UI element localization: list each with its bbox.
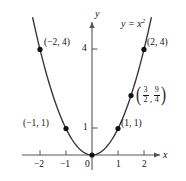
point-label-neg1-1: (−1, 1) bbox=[23, 119, 49, 129]
point-marker-origin bbox=[89, 152, 94, 157]
right-paren: ) bbox=[161, 86, 166, 103]
point-marker-neg2-4 bbox=[37, 47, 42, 52]
point-marker-1-1 bbox=[115, 126, 120, 131]
y-tick-label-1: 1 bbox=[83, 123, 88, 133]
fraction-denominator-4: 4 bbox=[154, 96, 160, 104]
fraction-numerator-9: 9 bbox=[154, 86, 160, 94]
point-label-2-4: (2, 4) bbox=[147, 38, 168, 48]
origin-label: 0 bbox=[85, 160, 90, 170]
fraction-denominator-2: 2 bbox=[143, 96, 149, 104]
equation-label: y = x2 bbox=[121, 18, 145, 29]
x-tick-label-2: 2 bbox=[142, 160, 147, 170]
x-tick-label--1: −1 bbox=[60, 160, 70, 170]
equation-exponent: 2 bbox=[142, 17, 146, 25]
equation-text: y = x bbox=[121, 18, 142, 29]
point-label-3over2-9over4: ( 3 2 , 9 4 ) bbox=[135, 86, 167, 104]
x-tick-label--2: −2 bbox=[34, 160, 44, 170]
y-tick-label-4: 4 bbox=[82, 44, 87, 54]
x-tick-label-1: 1 bbox=[116, 160, 121, 170]
point-label-1-1: (1, 1) bbox=[121, 119, 142, 129]
x-axis-label: x bbox=[163, 150, 167, 160]
point-marker-neg1-1 bbox=[63, 126, 68, 131]
left-paren: ( bbox=[136, 86, 141, 103]
fraction-three-halves: 3 2 bbox=[142, 86, 149, 104]
y-axis-label: y bbox=[95, 9, 99, 19]
y-axis-arrow bbox=[89, 22, 94, 28]
x-axis-arrow bbox=[154, 152, 160, 157]
point-marker-2-4 bbox=[141, 47, 146, 52]
parabola-figure: y x y = x2 −2 −1 1 2 0 1 4 (−2, 4) (−1, … bbox=[0, 0, 186, 181]
fraction-nine-fourths: 9 4 bbox=[153, 86, 160, 104]
point-label-neg2-4: (−2, 4) bbox=[44, 38, 70, 48]
fraction-numerator-3: 3 bbox=[143, 86, 149, 94]
point-marker-3over2-9over4 bbox=[128, 93, 133, 98]
